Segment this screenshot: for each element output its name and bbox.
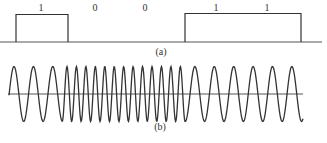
bit-label-2: 0 bbox=[93, 3, 98, 13]
pulse-2 bbox=[185, 14, 301, 43]
bit-label-4: 1 bbox=[214, 3, 219, 13]
bit-label-5: 1 bbox=[265, 3, 270, 13]
caption-b: (b) bbox=[154, 122, 166, 132]
fsk-waveform-panel-b bbox=[8, 67, 303, 122]
bit-label-1: 1 bbox=[39, 3, 44, 13]
bit-label-3: 0 bbox=[143, 3, 148, 13]
fsk-diagram: 1 0 0 1 1 (a) (b) bbox=[0, 0, 327, 143]
caption-a: (a) bbox=[155, 47, 166, 57]
digital-signal-panel-a bbox=[0, 14, 322, 43]
pulse-1 bbox=[16, 15, 68, 43]
